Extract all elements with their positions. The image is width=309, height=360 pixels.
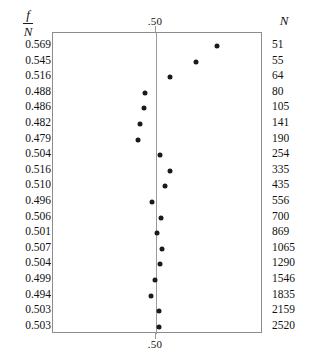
row-label-f-over-n: 0.503 [0, 304, 51, 316]
data-point [143, 90, 148, 95]
row-label-f-over-n: 0.482 [0, 117, 51, 129]
data-point [141, 106, 146, 111]
row-label-n: 51 [272, 39, 308, 51]
row-label-n: 2159 [272, 304, 308, 316]
data-point [135, 137, 140, 142]
reference-line-50 [156, 33, 157, 334]
row-label-f-over-n: 0.496 [0, 195, 51, 207]
row-label-n: 1546 [272, 273, 308, 285]
row-label-f-over-n: 0.504 [0, 257, 51, 269]
data-point [150, 200, 155, 205]
data-point [156, 309, 161, 314]
fraction-f-over-n: f N [21, 8, 36, 38]
row-label-f-over-n: 0.503 [0, 320, 51, 332]
row-label-f-over-n: 0.516 [0, 70, 51, 82]
row-label-n: 335 [272, 164, 308, 176]
fraction-denominator: N [21, 25, 36, 39]
row-label-n: 190 [272, 133, 308, 145]
column-header-f-over-n: f N [6, 8, 50, 38]
column-header-n: N [264, 14, 304, 27]
row-label-f-over-n: 0.545 [0, 55, 51, 67]
row-label-n: 55 [272, 55, 308, 67]
row-label-n: 556 [272, 195, 308, 207]
data-point [156, 324, 161, 329]
row-label-f-over-n: 0.569 [0, 39, 51, 51]
row-label-n: 80 [272, 86, 308, 98]
data-point [159, 215, 164, 220]
row-label-n: 1290 [272, 257, 308, 269]
row-label-f-over-n: 0.479 [0, 133, 51, 145]
row-label-n: 254 [272, 148, 308, 160]
axis-label-bottom: .50 [135, 338, 175, 350]
row-label-n: 1065 [272, 242, 308, 254]
data-point [162, 184, 167, 189]
row-label-f-over-n: 0.504 [0, 148, 51, 160]
data-point [168, 168, 173, 173]
row-label-n: 869 [272, 226, 308, 238]
data-point [148, 293, 153, 298]
data-point [168, 75, 173, 80]
row-label-f-over-n: 0.510 [0, 179, 51, 191]
row-label-n: 700 [272, 211, 308, 223]
data-point [154, 231, 159, 236]
row-label-n: 435 [272, 179, 308, 191]
row-label-n: 2520 [272, 320, 308, 332]
row-label-f-over-n: 0.506 [0, 211, 51, 223]
row-label-f-over-n: 0.501 [0, 226, 51, 238]
row-label-n: 105 [272, 101, 308, 113]
data-point [153, 278, 158, 283]
fraction-numerator: f [21, 8, 36, 22]
row-label-n: 64 [272, 70, 308, 82]
data-point [157, 262, 162, 267]
row-label-n: 141 [272, 117, 308, 129]
row-label-f-over-n: 0.488 [0, 86, 51, 98]
row-label-f-over-n: 0.507 [0, 242, 51, 254]
row-label-n: 1835 [272, 289, 308, 301]
data-point [138, 122, 143, 127]
row-label-f-over-n: 0.494 [0, 289, 51, 301]
row-label-f-over-n: 0.516 [0, 164, 51, 176]
plot-frame [52, 32, 262, 333]
data-point [193, 59, 198, 64]
data-point [160, 246, 165, 251]
row-label-f-over-n: 0.486 [0, 101, 51, 113]
data-point [214, 44, 219, 49]
row-label-f-over-n: 0.499 [0, 273, 51, 285]
figure-container: f N N .50 .50 0.5690.5450.5160.4880.4860… [0, 0, 309, 360]
data-point [157, 153, 162, 158]
